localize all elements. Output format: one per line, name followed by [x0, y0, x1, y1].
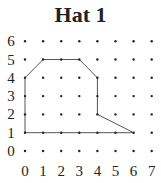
x-axis-label: 1	[39, 163, 47, 179]
grid-dot	[114, 150, 116, 152]
grid-dot	[151, 95, 153, 97]
grid-dot	[96, 150, 98, 152]
grid-dot	[96, 113, 98, 115]
grid-dot	[132, 77, 134, 79]
grid-dot	[24, 132, 26, 134]
grid-dot	[78, 58, 80, 60]
grid-dot	[151, 77, 153, 79]
x-axis-label: 5	[112, 163, 120, 179]
grid-dot	[78, 150, 80, 152]
x-axis-label: 6	[130, 163, 138, 179]
grid-dot	[114, 113, 116, 115]
y-axis-label: 2	[7, 106, 15, 122]
grid-dot	[78, 95, 80, 97]
grid-dot	[151, 132, 153, 134]
grid-dot	[151, 150, 153, 152]
grid-dot	[24, 150, 26, 152]
grid-dot	[60, 40, 62, 42]
grid-dot	[42, 113, 44, 115]
y-axis-label: 1	[7, 125, 15, 141]
grid-dot	[24, 113, 26, 115]
grid-dot	[78, 132, 80, 134]
x-axis-label: 7	[148, 163, 156, 179]
grid-dot	[114, 58, 116, 60]
grid-dot	[24, 40, 26, 42]
grid-dot	[96, 40, 98, 42]
grid-dot	[96, 77, 98, 79]
grid-dot	[42, 40, 44, 42]
grid-dot	[42, 77, 44, 79]
grid-dot	[96, 58, 98, 60]
x-axis-label: 0	[21, 163, 29, 179]
grid-dot	[78, 113, 80, 115]
grid-dot	[60, 58, 62, 60]
grid-dot	[96, 95, 98, 97]
x-axis-label: 4	[94, 163, 102, 179]
grid-dot	[132, 150, 134, 152]
grid-dot	[60, 113, 62, 115]
dot-grid-diagram: 012345676543210	[0, 0, 161, 183]
y-axis-label: 0	[7, 143, 15, 159]
grid-dot	[132, 132, 134, 134]
y-axis-label: 4	[7, 70, 15, 86]
grid-dot	[60, 77, 62, 79]
grid-dot	[132, 40, 134, 42]
grid-dot	[78, 77, 80, 79]
y-axis-label: 6	[7, 33, 15, 49]
grid-dot	[42, 58, 44, 60]
grid-dot	[151, 40, 153, 42]
grid-dot	[132, 113, 134, 115]
grid-dot	[42, 150, 44, 152]
grid-dot	[114, 77, 116, 79]
grid-dot	[60, 150, 62, 152]
grid-dot	[151, 113, 153, 115]
grid-dot	[78, 40, 80, 42]
y-axis-label: 5	[7, 52, 15, 68]
grid-dot	[42, 132, 44, 134]
x-axis-label: 3	[76, 163, 84, 179]
x-axis-label: 2	[57, 163, 65, 179]
grid-dot	[24, 77, 26, 79]
grid-dot	[151, 58, 153, 60]
grid-dot	[60, 95, 62, 97]
grid-dot	[24, 95, 26, 97]
grid-dot	[60, 132, 62, 134]
grid-dot	[114, 95, 116, 97]
grid-dot	[114, 132, 116, 134]
grid-dot	[132, 58, 134, 60]
grid-dot	[42, 95, 44, 97]
grid-dot	[114, 40, 116, 42]
grid-dot	[96, 132, 98, 134]
y-axis-label: 3	[7, 88, 15, 104]
grid-dot	[132, 95, 134, 97]
grid-dot	[24, 58, 26, 60]
